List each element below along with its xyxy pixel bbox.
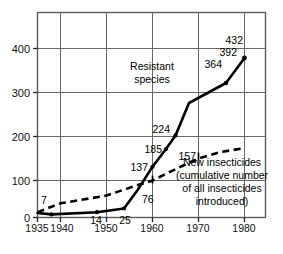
xtick-label-1940: 1940	[50, 222, 74, 234]
data-point-364	[224, 81, 228, 85]
data-point-432	[242, 56, 247, 61]
data-point-137	[150, 165, 154, 169]
resistant-species-annotation: Resistant species	[130, 60, 174, 85]
data-point-224	[173, 133, 177, 137]
point-label-185: 185	[144, 143, 162, 155]
point-label-364: 364	[204, 58, 222, 70]
new-insecticides-line3: of all insecticides	[182, 182, 261, 194]
data-point-25	[122, 206, 126, 210]
ytick-label-100: 100	[12, 175, 30, 187]
resistant-species-line1: Resistant	[130, 60, 174, 72]
xtick-label-1935: 1935	[25, 222, 49, 234]
point-label-76: 76	[142, 193, 154, 205]
xtick-label-1980: 1980	[232, 222, 256, 234]
ytick-label-300: 300	[12, 87, 30, 99]
resistant-species-line2: species	[134, 73, 170, 85]
ytick-label-200: 200	[12, 131, 30, 143]
insecticide-resistance-chart: 0 100 200 300 400 1935 1940 1950 1960 19…	[0, 0, 283, 254]
xtick-label-1970: 1970	[186, 222, 210, 234]
point-label-14: 14	[90, 214, 102, 226]
xtick-label-1960: 1960	[140, 222, 164, 234]
data-point-185	[164, 147, 168, 151]
new-insecticides-line2: (cumulative number	[176, 169, 269, 181]
point-label-224: 224	[152, 123, 170, 135]
new-insecticides-line1: New insecticides	[183, 156, 261, 168]
point-label-392: 392	[219, 46, 237, 58]
data-point-7	[49, 212, 53, 216]
ytick-label-400: 400	[12, 43, 30, 55]
point-label-25: 25	[119, 214, 131, 226]
point-label-7: 7	[41, 194, 47, 206]
new-insecticides-line4: introduced)	[196, 195, 249, 207]
chart-svg: 0 100 200 300 400 1935 1940 1950 1960 19…	[0, 0, 283, 254]
point-label-137: 137	[130, 161, 148, 173]
point-label-432: 432	[225, 34, 243, 46]
